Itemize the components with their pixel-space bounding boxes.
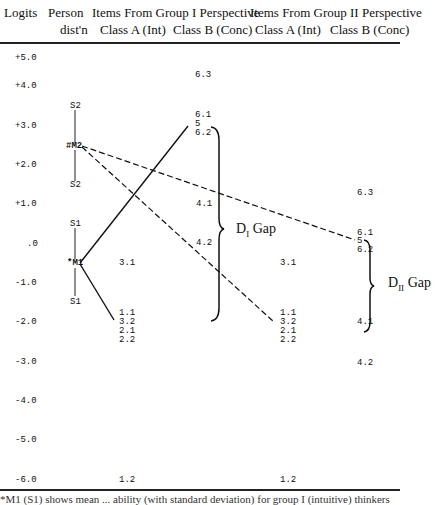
- gap-d1-sub: I: [246, 229, 249, 239]
- g1a-item-1-2: 1.2: [119, 476, 135, 485]
- g2b-item-6-3: 6.3: [357, 189, 373, 198]
- gap-label-d2: DII Gap: [388, 275, 431, 293]
- g1b-item-6-3: 6.3: [195, 71, 211, 80]
- gap-label-d1: DI Gap: [236, 221, 276, 239]
- g1b-item-4-1: 4.1: [196, 200, 212, 209]
- g2a-item-1-2: 1.2: [280, 476, 296, 485]
- figure-caption: *M1 (S1) shows mean ... ability (with st…: [0, 493, 390, 505]
- person-s2-bottom: S2: [70, 181, 81, 190]
- g1a-item: 2.2: [119, 336, 135, 345]
- gap-d2-sub: II: [398, 283, 404, 293]
- person-s1-bottom: S1: [70, 298, 81, 307]
- g1b-item: 6.2: [195, 129, 211, 138]
- gap-d2-letter: D: [388, 275, 398, 290]
- person-m1: *M1: [67, 259, 83, 268]
- gap-d1-word: Gap: [253, 221, 276, 236]
- gap-d2-word: Gap: [408, 275, 431, 290]
- g1b-item-4-2: 4.2: [196, 239, 212, 248]
- g2a-item-3-1: 3.1: [280, 259, 296, 268]
- g1a-item-3-1: 3.1: [119, 259, 135, 268]
- g2b-item-4-2: 4.2: [357, 359, 373, 368]
- person-s2-top: S2: [70, 102, 81, 111]
- g2b-item-4-1: 4.1: [357, 318, 373, 327]
- person-m2: #M2: [66, 142, 82, 151]
- gap-d1-letter: D: [236, 221, 246, 236]
- person-s1-top: S1: [70, 220, 81, 229]
- g2b-item: 6.2: [357, 246, 373, 255]
- g2a-item: 2.2: [280, 336, 296, 345]
